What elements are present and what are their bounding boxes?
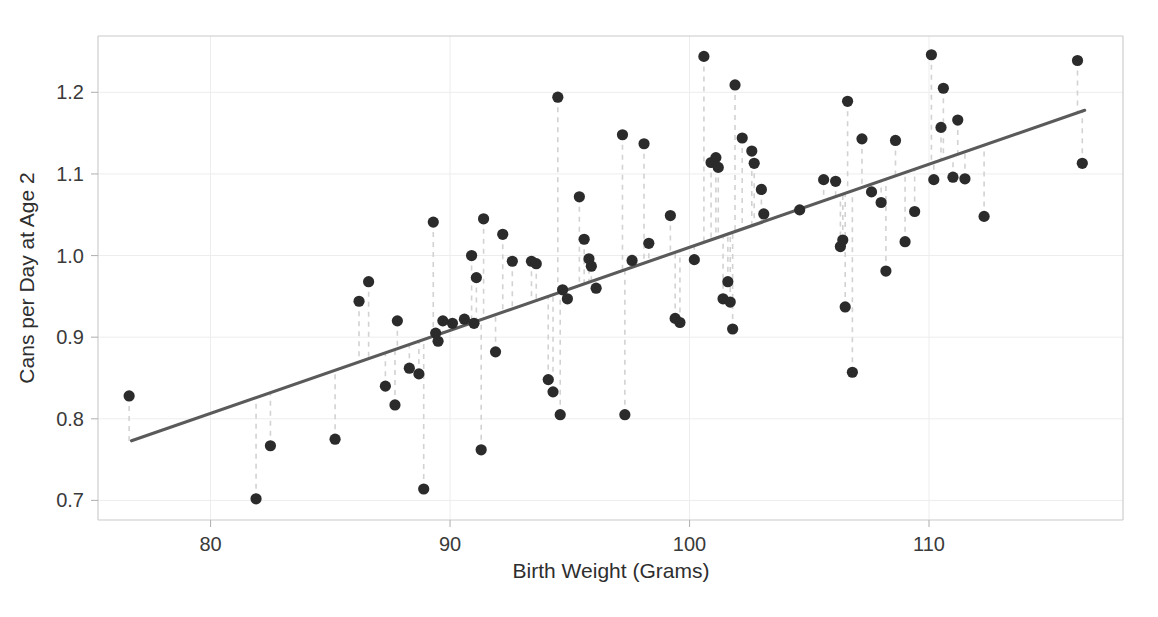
data-point xyxy=(1072,55,1083,66)
data-point xyxy=(586,261,597,272)
data-point xyxy=(890,135,901,146)
data-point xyxy=(729,79,740,90)
data-point xyxy=(490,346,501,357)
plot-frame xyxy=(98,36,1123,520)
data-point xyxy=(265,440,276,451)
data-point xyxy=(497,229,508,240)
data-point xyxy=(619,409,630,420)
data-point xyxy=(555,409,566,420)
data-point xyxy=(638,138,649,149)
data-point xyxy=(447,318,458,329)
y-tick-label: 1.0 xyxy=(56,245,84,267)
data-point xyxy=(959,173,970,184)
data-point xyxy=(689,254,700,265)
data-point xyxy=(392,315,403,326)
data-point xyxy=(794,204,805,215)
y-tick-label: 1.2 xyxy=(56,81,84,103)
data-point xyxy=(543,374,554,385)
y-tick-label: 0.7 xyxy=(56,489,84,511)
data-point xyxy=(437,315,448,326)
data-point xyxy=(909,206,920,217)
plot-canvas: 8090100110 0.70.80.91.01.11.2 Birth Weig… xyxy=(0,0,1158,617)
x-axis-title: Birth Weight (Grams) xyxy=(513,559,710,582)
data-point xyxy=(552,92,563,103)
data-point xyxy=(250,493,261,504)
data-point xyxy=(1077,158,1088,169)
data-point xyxy=(389,399,400,410)
x-tick-label: 100 xyxy=(673,533,706,555)
data-point xyxy=(847,367,858,378)
data-point xyxy=(830,176,841,187)
data-point xyxy=(698,51,709,62)
y-axis-title: Cans per Day at Age 2 xyxy=(15,172,38,383)
x-tick-label: 90 xyxy=(439,533,461,555)
data-point xyxy=(626,255,637,266)
data-point xyxy=(380,381,391,392)
data-point xyxy=(722,276,733,287)
data-point xyxy=(842,96,853,107)
data-point xyxy=(363,276,374,287)
data-point xyxy=(547,386,558,397)
data-point xyxy=(428,216,439,227)
data-point xyxy=(876,197,887,208)
data-point xyxy=(727,323,738,334)
data-point xyxy=(926,49,937,60)
data-point xyxy=(476,444,487,455)
y-tick-label: 0.9 xyxy=(56,326,84,348)
data-point xyxy=(725,296,736,307)
data-point xyxy=(938,83,949,94)
data-point xyxy=(952,114,963,125)
data-point xyxy=(818,174,829,185)
data-point xyxy=(978,211,989,222)
data-point xyxy=(478,213,489,224)
data-point xyxy=(124,390,135,401)
scatter-plot-figure: 8090100110 0.70.80.91.01.11.2 Birth Weig… xyxy=(0,0,1158,617)
data-point xyxy=(749,158,760,169)
data-point xyxy=(459,314,470,325)
data-point xyxy=(579,234,590,245)
data-point xyxy=(329,434,340,445)
data-point xyxy=(935,122,946,133)
data-point xyxy=(591,283,602,294)
data-point xyxy=(856,133,867,144)
data-point xyxy=(737,132,748,143)
data-point xyxy=(471,272,482,283)
y-axis-tick-labels: 0.70.80.91.01.11.2 xyxy=(56,81,84,511)
data-point xyxy=(418,483,429,494)
data-point xyxy=(758,208,769,219)
data-point xyxy=(713,162,724,173)
x-axis-tick-labels: 8090100110 xyxy=(199,533,945,555)
data-point xyxy=(562,293,573,304)
data-point xyxy=(507,256,518,267)
x-tick-label: 110 xyxy=(913,533,945,555)
data-point xyxy=(432,336,443,347)
data-point xyxy=(413,368,424,379)
data-point xyxy=(468,318,479,329)
data-point xyxy=(574,191,585,202)
y-tick-label: 0.8 xyxy=(56,408,84,430)
data-point xyxy=(466,250,477,261)
data-point xyxy=(746,145,757,156)
data-point xyxy=(947,172,958,183)
data-point xyxy=(617,129,628,140)
data-point xyxy=(928,174,939,185)
data-point xyxy=(404,363,415,374)
data-point xyxy=(643,238,654,249)
data-point xyxy=(674,317,685,328)
data-point xyxy=(880,265,891,276)
regression-line xyxy=(132,110,1085,441)
data-point xyxy=(531,258,542,269)
x-tick-label: 80 xyxy=(199,533,221,555)
y-tick-label: 1.1 xyxy=(56,163,84,185)
regression-fit-line xyxy=(132,110,1085,441)
data-point xyxy=(756,184,767,195)
data-point xyxy=(837,234,848,245)
data-point xyxy=(710,152,721,163)
data-point xyxy=(866,186,877,197)
data-point xyxy=(665,210,676,221)
data-point xyxy=(840,301,851,312)
data-point xyxy=(899,236,910,247)
data-point xyxy=(353,296,364,307)
grid-lines xyxy=(98,36,1123,520)
